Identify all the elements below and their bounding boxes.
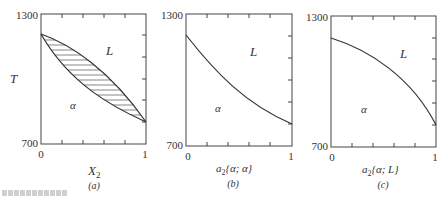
panel-a: 1300 700 0 1 T L α X2 (a) [10, 9, 148, 192]
region-label-alpha-a: α [70, 99, 76, 111]
y-tick-top-a: 1300 [16, 9, 39, 21]
x-tick-left-c: 0 [329, 151, 335, 163]
x-axis-label-b: a2{α; α} [216, 162, 253, 177]
x-tick-left-a: 0 [38, 148, 44, 160]
y-axis-label-a: T [10, 71, 18, 86]
ticks-a [62, 14, 146, 144]
x-tick-right-c: 1 [432, 151, 438, 163]
x-axis-label-a: X2 [87, 163, 100, 180]
region-label-L-a: L [105, 43, 113, 58]
plot-frame-b [186, 14, 292, 146]
x-tick-right-a: 1 [142, 148, 148, 160]
x-tick-right-b: 1 [288, 150, 294, 162]
ticks-c [352, 16, 436, 147]
figure-caption-fragment [2, 190, 68, 196]
caption-b: (b) [227, 178, 239, 190]
panel-b: 1300 700 0 1 L α a2{α; α} (b) [161, 9, 294, 190]
y-tick-bottom-b: 700 [167, 139, 184, 151]
region-label-L-c: L [399, 46, 407, 61]
x-tick-left-b: 0 [185, 150, 191, 162]
caption-a: (a) [88, 180, 100, 192]
plot-frame-c [331, 16, 436, 147]
caption-c: (c) [377, 179, 389, 191]
y-tick-bottom-a: 700 [22, 137, 39, 149]
ticks-b [207, 14, 292, 146]
two-phase-hatch [41, 40, 146, 115]
boundary-curve-b [186, 35, 292, 124]
figure-canvas: 1300 700 0 1 T L α X2 (a) 1300 700 0 1 L… [0, 0, 448, 199]
solidus-curve [41, 34, 146, 122]
liquidus-curve [41, 34, 146, 122]
region-label-alpha-b: α [215, 102, 221, 114]
y-tick-top-c: 1300 [306, 11, 329, 23]
y-tick-bottom-c: 700 [312, 140, 329, 152]
region-label-L-b: L [249, 44, 257, 59]
y-tick-top-b: 1300 [161, 9, 184, 21]
plot-frame-a [41, 14, 146, 144]
panel-c: 1300 700 0 1 L α a2{α; L} (c) [306, 11, 438, 191]
boundary-curve-c [331, 38, 436, 125]
x-axis-label-c: a2{α; L} [362, 163, 399, 178]
region-label-alpha-c: α [361, 103, 367, 115]
